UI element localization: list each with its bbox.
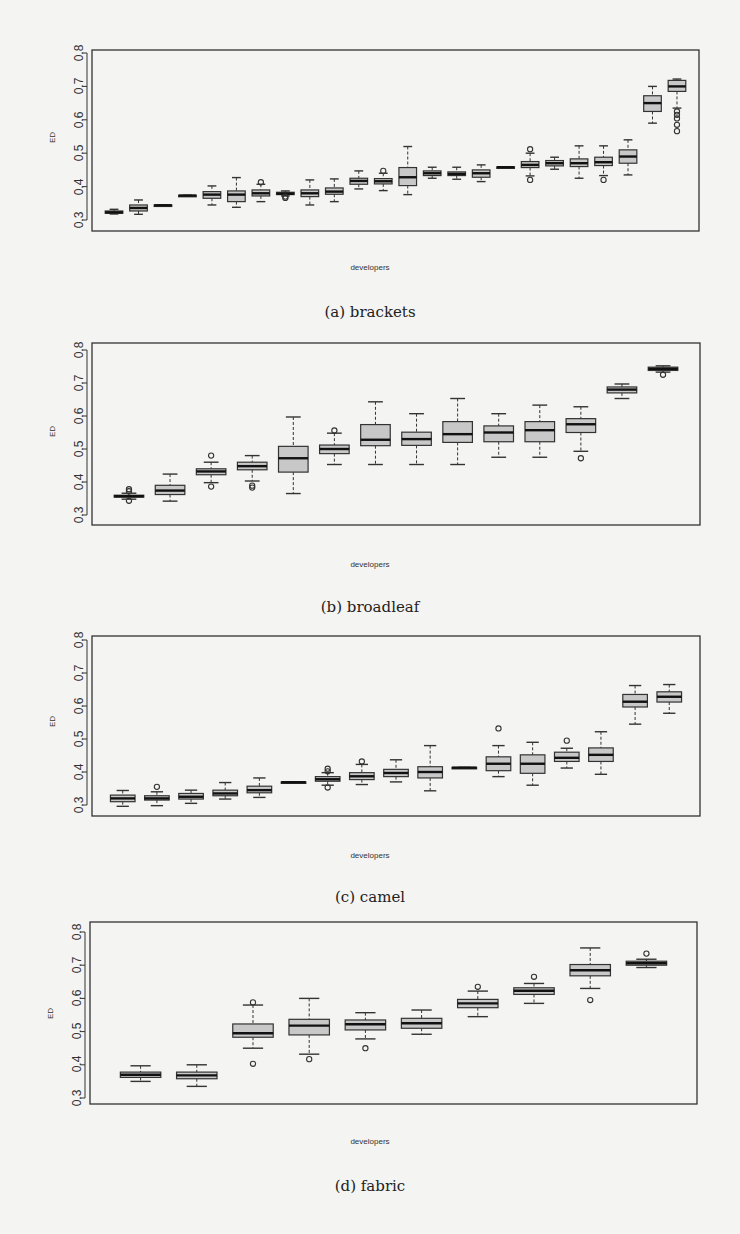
- outlier-point: [363, 1046, 368, 1051]
- y-tick-0.4: 0.4: [71, 1052, 83, 1076]
- box: [626, 951, 666, 968]
- box: [458, 984, 498, 1016]
- outlier-point: [475, 984, 480, 989]
- box: [177, 1065, 217, 1087]
- outlier-point: [250, 1061, 255, 1066]
- subfigure-caption: (d) fabric: [0, 1177, 740, 1195]
- y-tick-0.8: 0.8: [71, 920, 83, 944]
- box: [233, 1000, 273, 1067]
- box: [289, 998, 329, 1061]
- outlier-point: [531, 974, 536, 979]
- y-tick-0.7: 0.7: [71, 953, 83, 977]
- box: [401, 1010, 441, 1034]
- box: [345, 1013, 385, 1051]
- box: [570, 948, 610, 1003]
- outlier-point: [250, 1000, 255, 1005]
- y-axis-label: ED: [46, 1004, 55, 1024]
- x-axis-label: developers: [0, 1137, 740, 1146]
- box: [120, 1066, 160, 1082]
- outlier-point: [588, 997, 593, 1002]
- boxplot-chart: [0, 0, 740, 1234]
- y-tick-0.5: 0.5: [71, 1019, 83, 1043]
- outlier-point: [307, 1057, 312, 1062]
- subfigure-d: ED 0.8 0.7 0.6 0.5 0.4 0.3 developers (d…: [0, 0, 740, 1234]
- y-tick-0.6: 0.6: [71, 986, 83, 1010]
- outlier-point: [644, 951, 649, 956]
- box: [514, 974, 554, 1003]
- y-tick-0.3: 0.3: [71, 1086, 83, 1110]
